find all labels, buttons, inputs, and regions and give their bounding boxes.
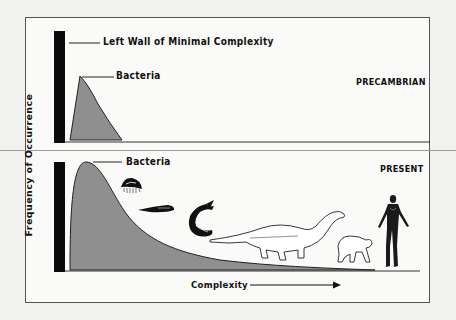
precambrian-title: PRECAMBRIAN bbox=[356, 77, 426, 87]
bacteria-label-present: Bacteria bbox=[126, 156, 171, 167]
diagram-graphics bbox=[0, 0, 456, 320]
present-panel bbox=[54, 162, 420, 272]
bacteria-curve-top bbox=[70, 76, 122, 140]
ape-icon bbox=[338, 236, 372, 262]
precambrian-panel bbox=[54, 31, 430, 143]
dinosaur-icon bbox=[210, 211, 345, 260]
left-wall-top bbox=[54, 31, 65, 143]
human-icon bbox=[378, 195, 409, 267]
trilobite-icon bbox=[138, 205, 174, 212]
fish-icon bbox=[189, 200, 214, 237]
left-wall-bottom bbox=[54, 162, 65, 272]
y-axis-label: Frequency of Occurrence bbox=[23, 94, 34, 237]
present-title: PRESENT bbox=[380, 164, 423, 174]
bacteria-label-precambrian: Bacteria bbox=[116, 70, 161, 81]
jellyfish-icon bbox=[121, 178, 142, 193]
complexity-arrow bbox=[250, 282, 341, 289]
left-wall-label: Left Wall of Minimal Complexity bbox=[103, 36, 274, 47]
x-axis-label: Complexity bbox=[191, 279, 248, 290]
